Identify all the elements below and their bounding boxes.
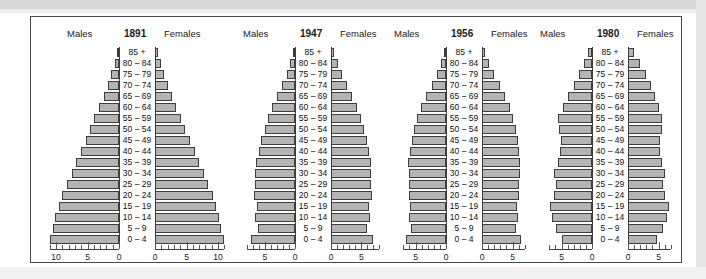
age-row: 35 – 39 [39,157,235,168]
pyramid-header: Males1956Females [391,28,537,42]
bar-male [99,103,119,113]
bar-male [559,125,592,135]
axis-tick-minor [652,245,653,249]
axis-tick-minor [494,245,495,249]
bar-male [287,70,295,80]
bar-male [432,81,446,91]
axis-line-males [50,249,119,250]
axis-tick-major [187,242,188,249]
axis-tick-minor [259,245,260,249]
scan-bottom-band [0,267,706,279]
age-group-label: 45 – 49 [295,135,331,146]
axis-tick-label: 5 [504,252,522,262]
axis-tick-minor [277,245,278,249]
age-group-label: 35 – 39 [592,157,628,168]
bar-female [331,92,352,102]
age-group-label: 20 – 24 [592,190,628,201]
axis-line-females [482,249,525,250]
age-row: 35 – 39 [391,157,537,168]
axis-tick-label: 5 [407,252,425,262]
axis-tick-minor [549,245,550,249]
axis-tick-minor [174,245,175,249]
age-group-label: 60 – 64 [295,102,331,113]
bar-female [482,147,519,157]
age-row: 80 – 84 [237,58,389,69]
bar-male [409,191,446,201]
axis-tick-major [155,242,156,249]
age-group-label: 30 – 34 [446,168,482,179]
pyramid-1891: Males1891Females85 +80 – 8475 – 7970 – 7… [39,17,235,264]
bar-male [258,224,295,234]
bar-female [155,114,181,124]
axis-tick-label: 0 [473,252,491,262]
bar-male [412,136,446,146]
age-row: 55 – 59 [391,113,537,124]
bar-female [628,59,640,69]
bar-male [409,169,446,179]
age-group-label: 20 – 24 [295,190,331,201]
age-row: 20 – 24 [391,190,537,201]
age-row: 25 – 29 [39,179,235,190]
scan-right-band [696,0,706,279]
male-baseline [592,47,593,245]
age-row: 0 – 4 [537,234,683,245]
bar-female [628,224,663,234]
age-group-label: 50 – 54 [119,124,155,135]
bar-female [331,70,342,80]
age-row: 80 – 84 [39,58,235,69]
axis-line-females [155,249,224,250]
axis-tick-minor [440,245,441,249]
bar-female [628,114,662,124]
bar-female [628,202,669,212]
age-row: 15 – 19 [39,201,235,212]
bar-male [256,158,295,168]
age-group-label: 30 – 34 [119,168,155,179]
bar-male [417,114,446,124]
age-row: 45 – 49 [39,135,235,146]
bar-male [409,213,446,223]
bar-female [628,235,657,245]
female-baseline [628,47,629,245]
bar-male [410,202,446,212]
bar-male [277,92,295,102]
axis-line-females [628,249,671,250]
axis-tick-label: 0 [619,252,637,262]
age-group-label: 80 – 84 [295,58,331,69]
age-group-label: 70 – 74 [119,80,155,91]
bar-male [53,224,119,234]
age-row: 45 – 49 [237,135,389,146]
age-group-label: 10 – 14 [295,212,331,223]
axis-tick-minor [634,245,635,249]
age-row: 75 – 79 [39,69,235,80]
age-row: 5 – 9 [537,223,683,234]
age-row: 60 – 64 [537,102,683,113]
age-group-label: 15 – 19 [592,201,628,212]
axis-tick-label: 5 [352,252,370,262]
age-row: 5 – 9 [391,223,537,234]
age-row: 20 – 24 [39,190,235,201]
axis-tick-minor [106,245,107,249]
axis-tick-label: 0 [286,252,304,262]
age-group-label: 65 – 69 [592,91,628,102]
bar-female [155,103,176,113]
bar-female [482,213,518,223]
bar-male [552,213,592,223]
age-group-label: 85 + [592,47,628,58]
age-group-label: 30 – 34 [295,168,331,179]
bar-male [259,147,295,157]
axis-tick-minor [580,245,581,249]
plot-area: 85 +80 – 8475 – 7970 – 7465 – 6960 – 645… [39,47,235,245]
age-group-label: 55 – 59 [295,113,331,124]
bar-female [155,235,224,245]
axis-tick-minor [271,245,272,249]
bar-male [568,92,592,102]
males-legend-label: Males [67,28,92,40]
bar-female [155,191,213,201]
age-row: 85 + [39,47,235,58]
age-row: 40 – 44 [39,146,235,157]
bar-male [108,81,119,91]
bar-female [628,180,663,190]
age-group-label: 75 – 79 [119,69,155,80]
age-row: 80 – 84 [537,58,683,69]
age-row: 30 – 34 [537,168,683,179]
